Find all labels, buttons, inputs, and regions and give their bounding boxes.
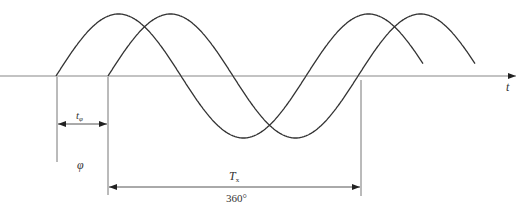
time-axis-label: t — [506, 80, 510, 94]
period-degrees-label: 360° — [226, 192, 247, 204]
phase-angle-label: φ — [77, 158, 84, 172]
phase-time-label: tφ — [76, 109, 83, 123]
period-label: Tx — [229, 169, 240, 184]
phase-diagram: t tφ φ Tx 360° — [0, 0, 529, 216]
